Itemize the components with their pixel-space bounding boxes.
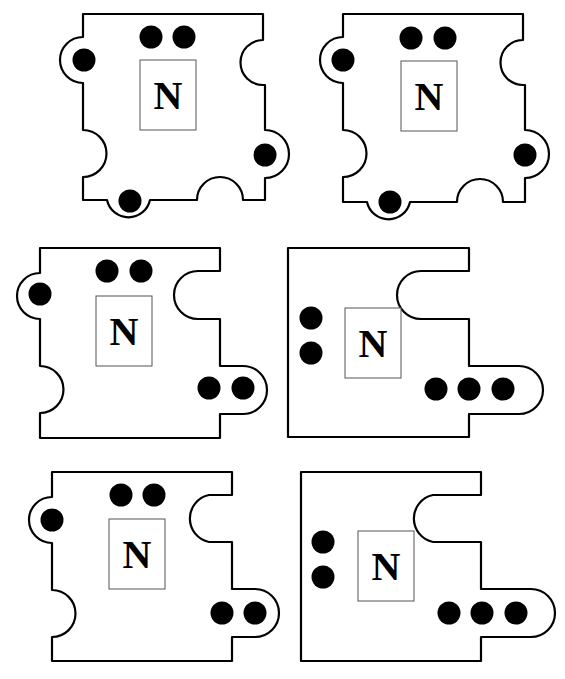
puzzle-piece: N	[29, 472, 279, 661]
dot	[254, 144, 277, 167]
dot	[425, 378, 448, 401]
dot	[312, 566, 335, 589]
dot	[130, 260, 153, 283]
dot	[332, 49, 355, 72]
dot	[143, 484, 166, 507]
puzzle-piece: N	[60, 14, 289, 217]
dot	[73, 49, 96, 72]
dot	[96, 260, 119, 283]
dot	[514, 144, 537, 167]
dot	[140, 26, 163, 49]
puzzle-piece: N	[288, 248, 543, 437]
dot	[312, 531, 335, 554]
dot	[300, 307, 323, 330]
piece-outline	[301, 472, 555, 661]
piece-label: N	[110, 309, 139, 354]
dot	[434, 27, 457, 50]
dot	[119, 190, 142, 213]
puzzle-piece: N	[301, 472, 555, 661]
piece-label: N	[372, 544, 401, 589]
dot	[232, 377, 255, 400]
dot	[379, 191, 402, 214]
dot	[471, 602, 494, 625]
dot	[458, 378, 481, 401]
puzzle-piece: N	[17, 248, 267, 438]
dot	[173, 26, 196, 49]
dot	[29, 283, 52, 306]
puzzle-piece: N	[320, 14, 549, 219]
piece-outline	[288, 248, 543, 437]
dot	[492, 378, 515, 401]
dot	[110, 484, 133, 507]
puzzle-diagram: NNNNNN	[0, 0, 565, 679]
piece-label: N	[415, 74, 444, 119]
dot	[300, 342, 323, 365]
piece-label: N	[123, 532, 152, 577]
dot	[438, 602, 461, 625]
dot	[244, 602, 267, 625]
piece-label: N	[359, 321, 388, 366]
dot	[198, 377, 221, 400]
dot	[505, 602, 528, 625]
dot	[400, 27, 423, 50]
dot	[211, 602, 234, 625]
dot	[41, 509, 64, 532]
piece-label: N	[154, 73, 183, 118]
